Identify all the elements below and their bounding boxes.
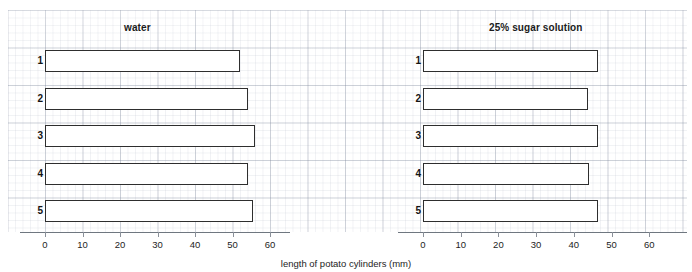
- bar-category-label: 3: [31, 130, 43, 141]
- bar-water-5: [45, 200, 253, 222]
- x-tick-label: 0: [420, 239, 425, 250]
- bar-category-label: 4: [31, 168, 43, 179]
- x-axis-line-water: [20, 232, 290, 233]
- bar-water-2: [45, 88, 248, 110]
- x-tick-label: 60: [644, 239, 655, 250]
- x-tick-label: 0: [42, 239, 47, 250]
- bar-category-label: 5: [31, 205, 43, 216]
- panel-water-title: water: [124, 22, 151, 33]
- panel-water: water 1 2 3 4 5 0 10 20 30 40 50: [0, 0, 346, 272]
- x-tick-label: 40: [190, 239, 201, 250]
- x-tick-label: 30: [152, 239, 163, 250]
- x-tick-label: 20: [115, 239, 126, 250]
- bar-sugar-3: [423, 125, 598, 147]
- bar-category-label: 3: [409, 130, 421, 141]
- bar-sugar-5: [423, 200, 598, 222]
- bar-water-1: [45, 50, 240, 72]
- bar-sugar-2: [423, 88, 588, 110]
- bar-water-3: [45, 125, 255, 147]
- x-tick-label: 50: [606, 239, 617, 250]
- bar-category-label: 2: [409, 93, 421, 104]
- bar-category-label: 2: [31, 93, 43, 104]
- x-axis-line-sugar: [398, 232, 687, 233]
- x-tick-label: 50: [227, 239, 238, 250]
- x-tick-label: 30: [531, 239, 542, 250]
- x-tick-label: 10: [455, 239, 466, 250]
- x-tick-label: 10: [77, 239, 88, 250]
- bar-sugar-1: [423, 50, 598, 72]
- bar-water-4: [45, 163, 248, 185]
- graph-figure: water 1 2 3 4 5 0 10 20 30 40 50: [0, 0, 692, 272]
- x-tick-label: 60: [265, 239, 276, 250]
- x-tick-label: 20: [493, 239, 504, 250]
- panel-sugar-title: 25% sugar solution: [489, 22, 583, 33]
- bar-category-label: 4: [409, 168, 421, 179]
- bar-category-label: 1: [31, 55, 43, 66]
- x-tick-label: 40: [569, 239, 580, 250]
- panel-sugar: 25% sugar solution 1 2 3 4 5 0 10 20 30: [346, 0, 692, 272]
- bar-category-label: 5: [409, 205, 421, 216]
- x-axis-title: length of potato cylinders (mm): [0, 258, 692, 269]
- bar-category-label: 1: [409, 55, 421, 66]
- bar-sugar-4: [423, 163, 589, 185]
